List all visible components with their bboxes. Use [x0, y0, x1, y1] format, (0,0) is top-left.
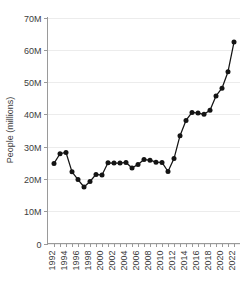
data-point [226, 69, 231, 74]
data-point [166, 169, 171, 174]
x-tick-label: 2004 [119, 251, 129, 271]
x-tick-label: 2002 [107, 251, 117, 271]
line-chart: 010M20M30M40M50M60M70M 19921994199619982… [0, 0, 249, 284]
x-tick-label: 2020 [215, 251, 225, 271]
x-tick-label: 1994 [59, 251, 69, 271]
y-tick-label: 20M [24, 175, 42, 185]
data-point [154, 160, 159, 165]
data-point [88, 179, 93, 184]
data-point [94, 172, 99, 177]
y-axis-label: People (millions) [5, 97, 15, 164]
data-point [106, 160, 111, 165]
data-point [220, 86, 225, 91]
x-tick-label: 2016 [191, 251, 201, 271]
data-point [118, 161, 123, 166]
data-point [100, 173, 105, 178]
y-tick-label: 70M [24, 14, 42, 24]
data-point [184, 118, 189, 123]
data-point [124, 160, 129, 165]
data-point [70, 169, 75, 174]
data-point [58, 151, 63, 156]
data-point [190, 110, 195, 115]
data-point [178, 133, 183, 138]
y-tick-label: 10M [24, 207, 42, 217]
data-point [232, 40, 237, 45]
data-point [76, 177, 81, 182]
data-point [148, 158, 153, 163]
x-tick-label: 1998 [83, 251, 93, 271]
data-point [160, 160, 165, 165]
y-tick-label: 0 [36, 240, 41, 250]
x-tick-label: 1996 [71, 251, 81, 271]
y-tick-label: 60M [24, 46, 42, 56]
data-point [82, 185, 87, 190]
data-point [136, 162, 141, 167]
data-point [130, 165, 135, 170]
y-tick-label: 30M [24, 143, 42, 153]
x-tick-label: 2000 [95, 251, 105, 271]
data-point [208, 108, 213, 113]
chart-canvas: 010M20M30M40M50M60M70M 19921994199619982… [0, 0, 249, 284]
x-tick-label: 2010 [155, 251, 165, 271]
data-point [214, 93, 219, 98]
data-point [52, 161, 57, 166]
y-tick-label: 40M [24, 110, 42, 120]
x-tick-label: 2006 [131, 251, 141, 271]
data-point [172, 156, 177, 161]
x-tick-label: 2018 [203, 251, 213, 271]
data-point [196, 111, 201, 116]
x-tick-label: 2014 [179, 251, 189, 271]
data-point [202, 112, 207, 117]
x-tick-label: 2012 [167, 251, 177, 271]
y-tick-label: 50M [24, 78, 42, 88]
data-point [64, 150, 69, 155]
x-tick-label: 1992 [47, 251, 57, 271]
data-point [112, 161, 117, 166]
data-point [142, 157, 147, 162]
x-tick-label: 2022 [227, 251, 237, 271]
x-tick-label: 2008 [143, 251, 153, 271]
